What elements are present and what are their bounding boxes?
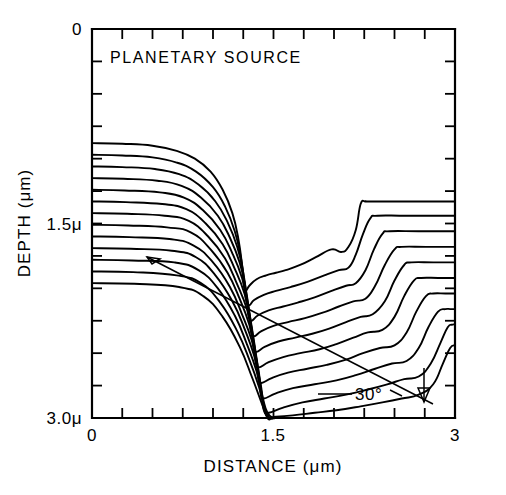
x-tick-label-2: 3 [450,426,460,445]
y-tick-label-1: 1.5μ [47,215,82,234]
x-tick-label-0: 0 [87,426,97,445]
y-axis-title: DEPTH (μm) [15,169,34,278]
planetary-source-profile-plot: 30° PLANETARY SOURCE 0 1.5 3 0 1.5μ 3.0μ… [0,0,506,495]
figure-container: 30° PLANETARY SOURCE 0 1.5 3 0 1.5μ 3.0μ… [0,0,506,495]
y-tick-label-2: 3.0μ [47,409,82,428]
profile-curve-3 [92,166,455,321]
profile-curve-8 [92,225,455,399]
ion-beam-direction-arrow [147,257,433,404]
x-tick-label-1: 1.5 [260,426,285,445]
profile-curve-7 [92,213,455,383]
y-tick-label-0: 0 [72,20,82,39]
x-axis-title: DISTANCE (μm) [204,457,343,476]
profile-curve-2 [92,155,455,306]
angle-annotation-label: 30° [355,385,382,404]
profile-curves-group [92,143,455,419]
plot-title: PLANETARY SOURCE [110,49,302,66]
